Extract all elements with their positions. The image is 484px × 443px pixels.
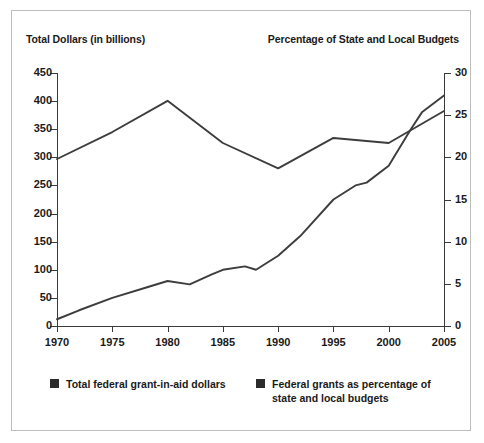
chart-figure: Total Dollars (in billions) Percentage o… bbox=[11, 10, 471, 431]
right-axis-tick-label: 10 bbox=[455, 236, 467, 247]
left-axis-tick-label: 300 bbox=[34, 151, 52, 162]
x-axis-tick bbox=[444, 326, 445, 332]
x-axis-tick bbox=[278, 326, 279, 332]
x-axis-tick bbox=[333, 326, 334, 332]
right-axis-tick bbox=[444, 326, 451, 327]
x-axis-tick bbox=[389, 326, 390, 332]
plot-area: 050100150200250300350400450 051015202530… bbox=[57, 73, 444, 326]
series-lines bbox=[57, 73, 444, 326]
right-axis-tick-label: 30 bbox=[455, 67, 467, 78]
right-axis-tick bbox=[444, 157, 451, 158]
right-axis-tick-label: 20 bbox=[455, 151, 467, 162]
x-axis-line bbox=[57, 326, 444, 327]
right-axis-tick-label: 25 bbox=[455, 109, 467, 120]
x-axis-tick-label: 1985 bbox=[211, 337, 235, 348]
left-axis-tick-label: 100 bbox=[34, 264, 52, 275]
x-axis-tick bbox=[57, 326, 58, 332]
x-axis-tick-label: 1970 bbox=[45, 337, 69, 348]
left-axis-tick-label: 250 bbox=[34, 179, 52, 190]
left-axis-title: Total Dollars (in billions) bbox=[26, 33, 145, 45]
legend-item-total-dollars: Total federal grant-in-aid dollars bbox=[50, 377, 232, 406]
right-axis-tick-label: 5 bbox=[455, 278, 461, 289]
right-axis-tick bbox=[444, 115, 451, 116]
legend-label: Total federal grant-in-aid dollars bbox=[66, 377, 226, 391]
x-axis-tick-label: 1980 bbox=[155, 337, 179, 348]
left-axis-tick-label: 50 bbox=[40, 292, 52, 303]
left-axis-tick-label: 200 bbox=[34, 208, 52, 219]
right-axis-tick bbox=[444, 242, 451, 243]
right-axis-tick-label: 15 bbox=[455, 194, 467, 205]
right-axis-tick-label: 0 bbox=[455, 320, 461, 331]
x-axis-tick-label: 2005 bbox=[432, 337, 456, 348]
series-line-total-dollars bbox=[57, 95, 444, 319]
x-axis-tick bbox=[168, 326, 169, 332]
left-axis-tick-label: 0 bbox=[46, 320, 52, 331]
right-axis-tick bbox=[444, 200, 451, 201]
x-axis-tick-label: 2000 bbox=[376, 337, 400, 348]
x-axis-tick-label: 1995 bbox=[321, 337, 345, 348]
x-axis-tick bbox=[112, 326, 113, 332]
legend-swatch-icon bbox=[256, 379, 265, 388]
legend-swatch-icon bbox=[50, 379, 59, 388]
left-axis-tick-label: 400 bbox=[34, 95, 52, 106]
chart-legend: Total federal grant-in-aid dollars Feder… bbox=[50, 377, 450, 406]
right-axis-title: Percentage of State and Local Budgets bbox=[268, 33, 459, 45]
x-axis-tick-label: 1975 bbox=[100, 337, 124, 348]
series-line-percentage bbox=[57, 101, 444, 168]
left-axis-tick-label: 350 bbox=[34, 123, 52, 134]
left-axis-tick-label: 450 bbox=[34, 67, 52, 78]
x-axis-tick bbox=[223, 326, 224, 332]
x-axis-tick-label: 1990 bbox=[266, 337, 290, 348]
right-axis-tick bbox=[444, 73, 451, 74]
left-axis-tick-label: 150 bbox=[34, 236, 52, 247]
legend-label: Federal grants as percentage of state an… bbox=[272, 377, 438, 406]
legend-item-percentage: Federal grants as percentage of state an… bbox=[256, 377, 438, 406]
right-axis-tick bbox=[444, 284, 451, 285]
